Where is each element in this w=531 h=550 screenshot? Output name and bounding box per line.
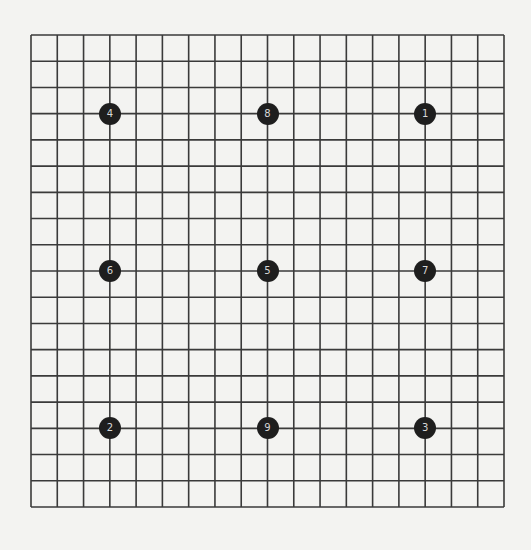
stone-4: 4 [99,103,121,125]
stone-8: 8 [257,103,279,125]
go-board: 123456789 [31,35,504,507]
stone-7: 7 [414,260,436,282]
stone-2: 2 [99,417,121,439]
stone-9: 9 [257,417,279,439]
stone-5: 5 [257,260,279,282]
stone-1: 1 [414,103,436,125]
stone-6: 6 [99,260,121,282]
